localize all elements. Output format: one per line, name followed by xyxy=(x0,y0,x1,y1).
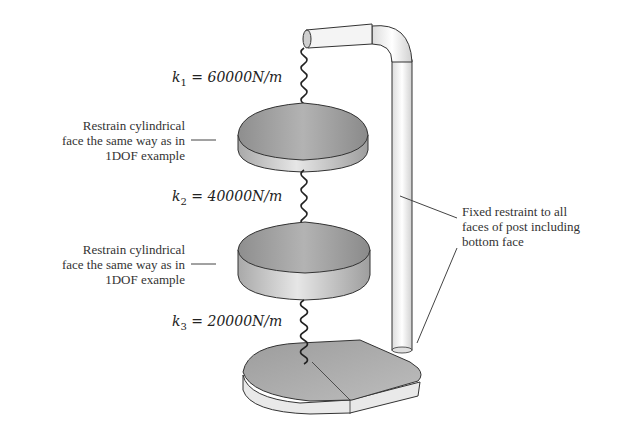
k3-value: 20000 xyxy=(208,313,253,329)
note-line: bottom face xyxy=(462,234,622,249)
note-mass-2: Restrain cylindrical face the same way a… xyxy=(0,242,185,287)
note-line: face the same way as in xyxy=(0,257,185,272)
fixed-post xyxy=(303,24,412,353)
k2-index: 2 xyxy=(180,196,186,207)
note-line: face the same way as in xyxy=(0,133,185,148)
note-post: Fixed restraint to all faces of post inc… xyxy=(462,204,622,249)
spring-k2-label: k2 = 40000N/m xyxy=(172,189,282,209)
note-line: 1DOF example xyxy=(0,272,185,287)
k3-unit: N/m xyxy=(252,313,282,329)
k1-value: 60000 xyxy=(208,69,253,85)
spring-k1-label: k1 = 60000N/m xyxy=(172,70,282,90)
note-mass-1: Restrain cylindrical face the same way a… xyxy=(0,118,185,163)
note-line: Restrain cylindrical xyxy=(0,242,185,257)
k1-unit: N/m xyxy=(252,69,282,85)
k1-index: 1 xyxy=(180,77,186,88)
spring-k2 xyxy=(301,170,307,226)
note-line: Restrain cylindrical xyxy=(0,118,185,133)
k3-index: 3 xyxy=(180,321,186,332)
k2-unit: N/m xyxy=(252,188,282,204)
leader-post-2 xyxy=(417,248,457,343)
note-line: Fixed restraint to all xyxy=(462,204,622,219)
mass-1 xyxy=(238,103,368,172)
k2-value: 40000 xyxy=(208,188,253,204)
spring-k3-label: k3 = 20000N/m xyxy=(172,314,282,334)
note-line: faces of post including xyxy=(462,219,622,234)
note-line: 1DOF example xyxy=(0,148,185,163)
mass-2 xyxy=(238,222,370,300)
